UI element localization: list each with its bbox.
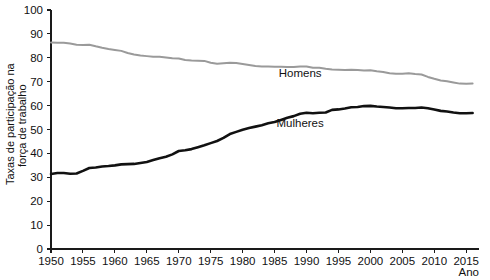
series-annotation-mulheres: Mulheres: [276, 117, 324, 129]
y-tick-label: 80: [30, 52, 43, 64]
x-tick-label: 2010: [421, 255, 447, 267]
x-tick-label: 1975: [198, 255, 224, 267]
y-axis-title: Taxas de participação na força de trabal…: [4, 62, 28, 185]
x-tick-label: 1960: [102, 255, 128, 267]
x-tick-label: 1965: [134, 255, 160, 267]
x-tick-label: 1970: [166, 255, 192, 267]
y-tick-label: 30: [30, 171, 43, 183]
x-axis-title: Ano: [459, 266, 479, 278]
y-tick-label: 100: [24, 4, 43, 16]
x-tick-label: 1980: [230, 255, 256, 267]
y-axis-title-line-2: força de trabalho: [16, 84, 28, 167]
y-tick-label: 90: [30, 28, 43, 40]
series-annotation-homens: Homens: [279, 67, 322, 79]
y-axis-title-line-1: Taxas de participação na: [4, 62, 16, 185]
x-tick-label: 1955: [70, 255, 96, 267]
y-tick-label: 70: [30, 76, 43, 88]
labor-force-participation-chart: 0102030405060708090100 19501955196019651…: [0, 0, 490, 280]
x-tick-label: 1995: [326, 255, 352, 267]
y-tick-label: 20: [30, 195, 43, 207]
axes: [51, 10, 479, 249]
y-tick-label: 10: [30, 219, 43, 231]
data-series: [51, 43, 473, 174]
y-tick-label: 50: [30, 124, 43, 136]
y-tick-label: 40: [30, 147, 43, 159]
series-line-homens: [51, 43, 473, 84]
chart-page: 0102030405060708090100 19501955196019651…: [0, 0, 490, 280]
series-line-mulheres: [51, 106, 473, 174]
x-tick-label: 2000: [358, 255, 384, 267]
x-tick-label: 1990: [294, 255, 320, 267]
series-annotations: HomensMulheres: [276, 67, 324, 129]
y-tick-label: 60: [30, 100, 43, 112]
y-tick-label: 0: [37, 243, 43, 255]
x-tick-label: 1950: [38, 255, 64, 267]
x-tick-label: 2005: [390, 255, 416, 267]
x-axis-ticks: 1950195519601965197019751980198519901995…: [38, 249, 479, 267]
x-tick-label: 1985: [262, 255, 288, 267]
